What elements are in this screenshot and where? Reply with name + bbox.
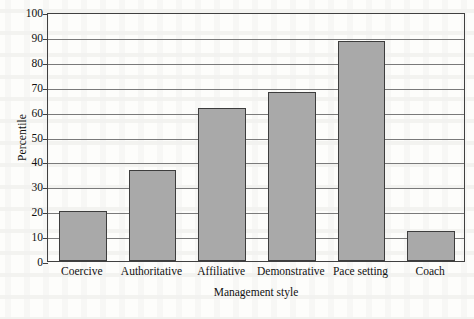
bar-chart: Percentile 0102030405060708090100 Coerci… (0, 0, 474, 319)
x-axis-tick-label: Authoritative (121, 265, 182, 277)
y-axis-tick-label: 100 (19, 7, 43, 19)
x-axis-tick-label: Coercive (61, 265, 103, 277)
y-axis-tick-label: 50 (19, 132, 43, 144)
bar-affiliative (198, 108, 246, 261)
y-axis-tick-label: 20 (19, 206, 43, 218)
x-axis-tick-labels: CoerciveAuthoritativeAffiliativeDemonstr… (47, 265, 465, 283)
bar-coercive (59, 211, 107, 261)
y-axis-tick-label: 70 (19, 82, 43, 94)
bar-authoritative (129, 170, 177, 261)
plot-area (47, 13, 465, 262)
x-axis-tick-label: Pace setting (333, 265, 388, 277)
bar-pace-setting (338, 41, 386, 261)
x-axis-title: Management style (47, 286, 465, 298)
y-axis-tick-labels: 0102030405060708090100 (17, 0, 43, 319)
x-axis-tick-label: Coach (415, 265, 444, 277)
y-axis-tick-label: 80 (19, 57, 43, 69)
y-axis-tick-label: 60 (19, 107, 43, 119)
bar-coach (407, 231, 455, 261)
bars (48, 14, 464, 261)
x-axis-tick-label: Demonstrative (257, 265, 325, 277)
y-axis-tick-label: 40 (19, 156, 43, 168)
y-axis-tick-label: 0 (19, 256, 43, 268)
y-axis-tick-label: 10 (19, 231, 43, 243)
bar-demonstrative (268, 92, 316, 261)
y-axis-tick-label: 90 (19, 32, 43, 44)
y-axis-tick-mark (43, 263, 48, 264)
y-axis-tick-label: 30 (19, 181, 43, 193)
x-axis-tick-label: Affiliative (197, 265, 245, 277)
